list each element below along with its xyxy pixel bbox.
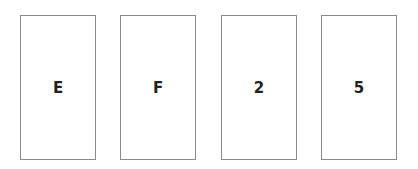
card-label: E xyxy=(53,79,63,97)
card-e[interactable]: E xyxy=(20,15,96,160)
card-label: 5 xyxy=(354,79,364,97)
card-f[interactable]: F xyxy=(120,15,196,160)
card-5[interactable]: 5 xyxy=(321,15,397,160)
card-label: 2 xyxy=(254,79,264,97)
card-label: F xyxy=(153,79,163,97)
card-2[interactable]: 2 xyxy=(221,15,297,160)
